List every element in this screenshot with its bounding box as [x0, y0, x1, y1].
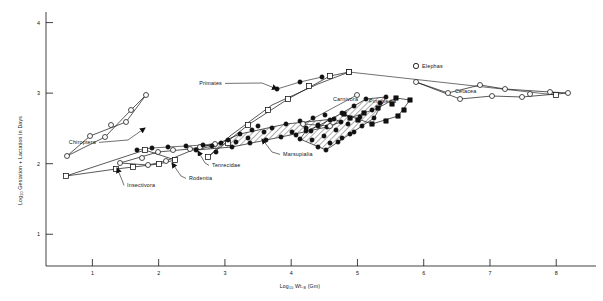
data-point-cetacea [446, 91, 451, 96]
data-point-carnivora-open [328, 124, 333, 129]
data-point-marsupialia [264, 138, 268, 142]
x-tick-label: 6 [422, 270, 425, 276]
y-axis-title: Log10 Gestation + Lactation in Days [17, 116, 24, 205]
data-point-rodentia [188, 147, 193, 152]
data-point-carnivora [322, 134, 326, 138]
group-label-elephas: Elephas [422, 63, 443, 69]
data-point-pinnipedia [376, 106, 380, 110]
data-point-marsupialia [323, 113, 327, 117]
data-point-carnivora [336, 140, 340, 144]
data-point-rodentia [171, 148, 176, 153]
data-point-rodentia [156, 150, 161, 155]
data-point-carnivora [328, 118, 332, 122]
data-point-carnivora [316, 124, 320, 128]
data-point-marsupialia [214, 150, 218, 154]
x-tick-label: 4 [290, 270, 293, 276]
data-point-carnivora [310, 138, 314, 142]
data-point-marsupialia [262, 130, 266, 134]
figure-root: 1234 12345678 ChiropteraInsectivoraRoden… [0, 0, 603, 301]
data-point-cetacea [548, 90, 553, 95]
data-point-tenrecidae [135, 148, 139, 152]
data-point-pinnipedia [396, 114, 400, 118]
group-label-insectivora: Insectivora [127, 182, 155, 188]
data-point-carnivora [298, 137, 302, 141]
data-point-marsupialia [309, 129, 313, 133]
data-point-pinnipedia [370, 122, 374, 126]
x-tick-label: 3 [223, 270, 226, 276]
data-point-primates [246, 123, 251, 128]
y-tick-label: 2 [37, 161, 40, 167]
group-hull-chiroptera [67, 95, 146, 156]
data-point-marsupialia [311, 116, 315, 120]
data-point-pinnipedia [384, 119, 388, 123]
y-tick-label: 1 [37, 231, 40, 237]
data-point-marsupialia [234, 140, 238, 144]
group-label-marsupialia: Marsupialia [283, 151, 313, 157]
data-point-primates-filled [320, 75, 324, 79]
data-point-cetacea [520, 95, 525, 100]
data-point-primates [206, 155, 211, 160]
leader-line-insectivora [117, 168, 124, 185]
data-point-chiroptera [65, 154, 70, 159]
data-point-primates [266, 108, 271, 113]
data-point-marsupialia [284, 122, 288, 126]
data-point-marsupialia [238, 132, 242, 136]
data-point-primates [307, 84, 312, 89]
data-point-marsupialia [339, 120, 343, 124]
scatter-plot-canvas: 1234 12345678 ChiropteraInsectivoraRoden… [0, 0, 603, 301]
y-tick-group: 1234 [37, 20, 53, 238]
group-label-carnivora: Carnivora [333, 96, 358, 102]
data-point-chiroptera [109, 123, 114, 128]
x-tick-label: 2 [157, 270, 160, 276]
data-point-marsupialia [279, 135, 283, 139]
data-point-cetacea [414, 80, 419, 85]
data-point-carnivora [340, 136, 344, 140]
data-point-tenrecidae [219, 141, 223, 145]
data-point-cetacea [478, 83, 483, 88]
data-point-primates-filled [298, 80, 302, 84]
data-point-cetacea [458, 97, 463, 102]
data-point-rodentia [164, 159, 169, 164]
group-label-pinnipedia: Pinnipedia [369, 98, 396, 104]
data-point-marsupialia [250, 128, 254, 132]
data-point-tenrecidae [184, 144, 188, 148]
data-point-marsupialia [256, 124, 260, 128]
data-point-carnivora [372, 116, 376, 120]
data-point-carnivora [364, 97, 368, 101]
x-tick-label: 5 [356, 270, 359, 276]
data-point-pinnipedia [342, 112, 346, 116]
data-point-marsupialia [332, 117, 336, 121]
data-point-rodentia [140, 156, 145, 161]
elephas-marker [413, 63, 418, 68]
data-point-pinnipedia [402, 108, 406, 112]
data-point-marsupialia [248, 141, 252, 145]
data-point-cetacea [503, 87, 508, 92]
data-point-carnivora [334, 128, 338, 132]
elephas-open-circle-marker [413, 63, 418, 68]
data-point-chiroptera [129, 108, 134, 113]
data-point-carnivora [352, 104, 356, 108]
group-label-primates: Primates [199, 80, 222, 86]
data-point-marsupialia [294, 133, 298, 137]
data-point-marsupialia [194, 148, 198, 152]
svg-text:Log10 Wt.B (Gm): Log10 Wt.B (Gm) [280, 283, 321, 290]
data-point-carnivora [324, 148, 328, 152]
x-tick-label: 7 [488, 270, 491, 276]
data-point-marsupialia [290, 130, 294, 134]
x-tick-label: 8 [555, 270, 558, 276]
data-point-marsupialia [210, 144, 214, 148]
data-point-cetacea [566, 91, 571, 96]
data-point-carnivora [360, 124, 364, 128]
data-point-primates [328, 74, 333, 79]
data-point-cetacea [528, 92, 533, 97]
y-tick-label: 3 [37, 90, 40, 96]
x-tick-group: 12345678 [91, 259, 558, 276]
data-point-carnivora [348, 132, 352, 136]
data-point-pinnipedia [362, 111, 366, 115]
data-point-pinnipedia [348, 116, 352, 120]
data-point-insectivora [143, 148, 148, 153]
data-point-pinnipedia [408, 98, 412, 102]
data-point-cetacea [490, 94, 495, 99]
data-point-marsupialia [270, 126, 274, 130]
data-point-insectivora [157, 162, 162, 167]
